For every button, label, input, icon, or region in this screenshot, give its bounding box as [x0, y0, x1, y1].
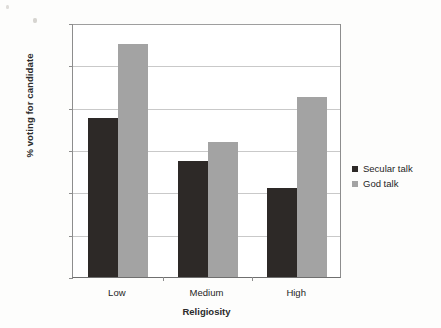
bar-low-secular-talk [88, 118, 118, 277]
y-tick-mark [69, 278, 73, 279]
bars-layer [73, 24, 340, 277]
bar-group-low [88, 24, 148, 277]
legend-item-god-talk: God talk [352, 177, 413, 190]
legend-swatch-icon [352, 166, 358, 172]
legend-label: God talk [363, 178, 398, 189]
scan-artifact-speck [6, 5, 9, 9]
bar-low-god-talk [118, 44, 148, 277]
bar-medium-secular-talk [178, 161, 208, 277]
y-axis-title: % voting for candidate [24, 36, 35, 176]
plot-area: 60%50%40%30%20%10%0% [72, 24, 341, 278]
x-axis-title: Religiosity [72, 306, 341, 317]
legend-item-secular-talk: Secular talk [352, 162, 413, 175]
bar-high-secular-talk [267, 188, 297, 277]
bar-group-medium [178, 24, 238, 277]
bar-high-god-talk [297, 97, 327, 277]
legend-label: Secular talk [363, 163, 413, 174]
x-tick-mark [252, 277, 253, 281]
bar-chart-figure: % voting for candidate 60%50%40%30%20%10… [0, 0, 441, 328]
x-tick-mark [163, 277, 164, 281]
legend: Secular talkGod talk [352, 162, 413, 192]
bar-medium-god-talk [208, 142, 238, 277]
scan-artifact-speck [33, 18, 37, 23]
bar-group-high [267, 24, 327, 277]
x-category-label-high: High [286, 287, 306, 298]
x-category-label-medium: Medium [190, 287, 224, 298]
x-category-label-low: Low [108, 287, 125, 298]
legend-swatch-icon [352, 181, 358, 187]
